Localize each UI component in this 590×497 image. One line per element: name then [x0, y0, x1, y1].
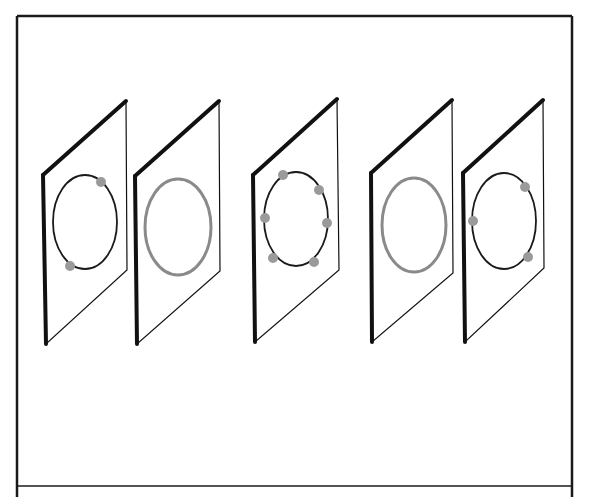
panel-left-edge: [371, 173, 372, 342]
panel-2: [135, 101, 220, 344]
ring-dot: [523, 252, 533, 262]
ring-dot: [520, 182, 530, 192]
panel-3: [253, 99, 339, 342]
ring-dot: [268, 253, 278, 263]
panel-sequence: [43, 99, 544, 344]
panel-left-edge: [463, 173, 465, 342]
ring-dot: [309, 257, 319, 267]
ring-dot: [322, 218, 332, 228]
ring-dot: [260, 213, 270, 223]
panel-5: [463, 100, 544, 342]
ring-dot: [468, 216, 478, 226]
ring-dot: [278, 170, 288, 180]
ring-dot: [314, 185, 324, 195]
panel-left-edge: [253, 175, 255, 342]
ring-dot: [65, 261, 75, 271]
panel-left-edge: [135, 176, 137, 344]
diagram-canvas: [0, 0, 590, 497]
panel-1: [43, 101, 127, 344]
ring-dot: [96, 177, 106, 187]
panel-4: [371, 100, 453, 342]
